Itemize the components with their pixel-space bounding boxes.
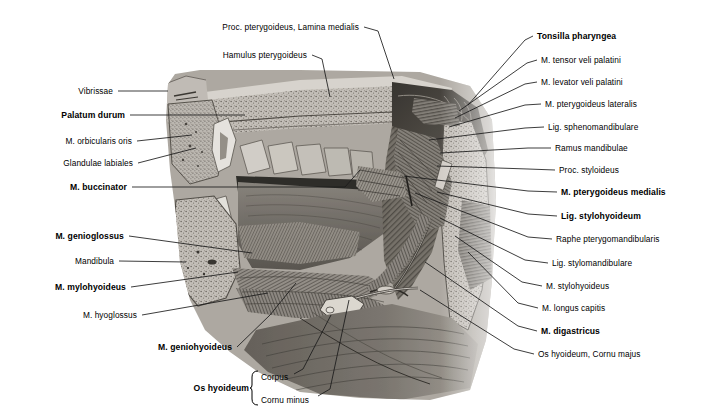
label-m-stylohyoideus: M. stylohyoideus [546, 281, 609, 291]
label-m-digastricus: M. digastricus [541, 326, 600, 336]
label-m-orbicularis-oris: M. orbicularis oris [65, 136, 132, 146]
label-m-pterygoideus-medialis: M. pterygoideus medialis [561, 187, 666, 197]
label-lig-stylohyoideum: Lig. stylohyoideum [561, 211, 641, 221]
label-mandibula: Mandibula [75, 256, 114, 266]
label-m-levator-veli-palatini: M. levator veli palatini [541, 77, 623, 87]
label-palatum-durum: Palatum durum [61, 110, 125, 120]
anatomical-figure: Proc. pterygoideus, Lamina medialisHamul… [0, 0, 703, 420]
label-tonsilla-pharyngea: Tonsilla pharyngea [537, 31, 616, 41]
label-proc-pterygoideus-lamina-medialis: Proc. pterygoideus, Lamina medialis [222, 22, 359, 32]
label-hamulus-pterygoideus: Hamulus pterygoideus [223, 50, 307, 60]
label-lig-sphenomandibulare: Lig. sphenomandibulare [548, 122, 638, 132]
label-os-hyoideum-corpus: Corpus [261, 372, 288, 382]
label-m-longus-capitis: M. longus capitis [542, 303, 605, 313]
label-vibrissae: Vibrissae [78, 86, 113, 96]
label-ramus-mandibulae: Ramus mandibulae [555, 143, 628, 153]
label-m-hyoglossus: M. hyoglossus [83, 310, 137, 320]
label-proc-styloideus: Proc. styloideus [559, 165, 619, 175]
label-raphe-pterygomandibularis: Raphe pterygomandibularis [556, 234, 660, 244]
label-m-tensor-veli-palatini: M. tensor veli palatini [541, 55, 621, 65]
label-m-mylohyoideus: M. mylohyoideus [55, 282, 126, 292]
label-lig-stylomandibulare: Lig. stylomandibulare [552, 258, 632, 268]
label-os-hyoideum-cornu-majus: Os hyoideum, Cornu majus [538, 349, 641, 359]
label-m-pterygoideus-lateralis: M. pterygoideus lateralis [545, 99, 637, 109]
label-m-geniohyoideus: M. geniohyoideus [158, 342, 232, 352]
label-m-genioglossus: M. genioglossus [55, 231, 124, 241]
label-os-hyoideum: Os hyoideum [194, 383, 249, 393]
label-os-hyoideum-cornu-minus: Cornu minus [261, 395, 309, 405]
label-m-buccinator: M. buccinator [70, 182, 127, 192]
label-glandulae-labiales: Glandulae labiales [63, 158, 133, 168]
